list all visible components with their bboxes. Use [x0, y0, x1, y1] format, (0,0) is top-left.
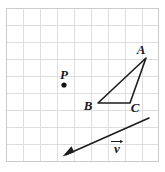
label-vertex-a: A	[136, 42, 146, 57]
figure-canvas: A B C P v	[0, 0, 165, 172]
label-vertex-b: B	[83, 98, 93, 113]
geometry-figure: A B C P v	[0, 0, 165, 172]
label-vector-v: v	[114, 141, 120, 156]
label-vertex-c: C	[131, 100, 140, 115]
label-point-p: P	[60, 67, 69, 82]
figure-background	[0, 0, 165, 172]
point-p-dot	[61, 82, 66, 87]
